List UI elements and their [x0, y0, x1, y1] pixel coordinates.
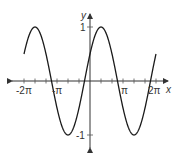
x-tick-label-negpi: -π: [52, 85, 62, 96]
y-tick-label-neg1: -1: [76, 130, 85, 141]
x-tick-label-2pi: 2π: [148, 85, 161, 96]
x-axis-label: x: [165, 84, 172, 95]
sine-chart: x y -2π -π π 2π 1 -1: [0, 0, 179, 158]
y-tick-label-1: 1: [80, 22, 86, 33]
y-axis-label: y: [80, 10, 87, 21]
x-tick-label-pi: π: [121, 85, 128, 96]
x-tick-label-neg2pi: -2π: [16, 85, 32, 96]
